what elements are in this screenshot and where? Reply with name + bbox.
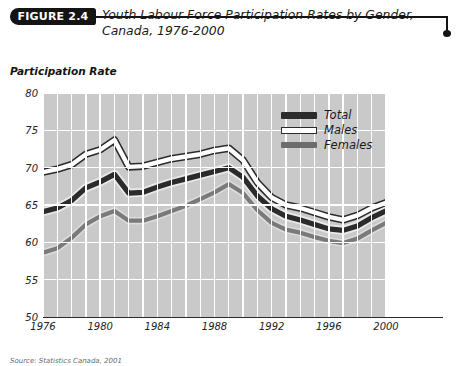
gridline-v-2000 xyxy=(385,93,386,317)
gridline-v-1983 xyxy=(142,93,143,317)
legend-swatch-total xyxy=(281,110,317,120)
gridline-v-1992 xyxy=(271,93,272,317)
gridline-v-1980 xyxy=(99,93,100,317)
gridline-v-1985 xyxy=(171,93,172,317)
gridline-v-1986 xyxy=(185,93,186,317)
x-axis-line xyxy=(43,317,443,318)
y-tick-label-70: 70 xyxy=(4,162,38,173)
legend-item-females: Females xyxy=(281,137,372,152)
gridline-v-1984 xyxy=(157,93,158,317)
chart-legend: Total Males Females xyxy=(281,107,372,152)
y-axis-ticks: 50556065707580 xyxy=(0,0,38,366)
y-tick-label-55: 55 xyxy=(4,274,38,285)
x-tick-label-1992: 1992 xyxy=(259,321,284,332)
legend-item-males: Males xyxy=(281,122,372,137)
legend-swatch-females xyxy=(281,140,317,150)
source-note: Source: Statistics Canada, 2001 xyxy=(10,357,122,365)
gridline-v-1981 xyxy=(114,93,115,317)
legend-label-males: Males xyxy=(324,124,357,136)
legend-swatch-males xyxy=(281,125,317,135)
x-tick-label-1984: 1984 xyxy=(145,321,170,332)
legend-label-total: Total xyxy=(324,109,351,121)
y-tick-label-60: 60 xyxy=(4,237,38,248)
x-tick-label-1980: 1980 xyxy=(87,321,112,332)
gridline-v-1989 xyxy=(228,93,229,317)
y-tick-label-80: 80 xyxy=(4,88,38,99)
legend-item-total: Total xyxy=(281,107,372,122)
x-tick-label-1996: 1996 xyxy=(316,321,341,332)
y-tick-label-65: 65 xyxy=(4,200,38,211)
x-tick-label-2000: 2000 xyxy=(373,321,398,332)
gridline-v-1982 xyxy=(128,93,129,317)
gridline-v-1978 xyxy=(71,93,72,317)
gridline-v-1991 xyxy=(257,93,258,317)
gridline-v-1979 xyxy=(85,93,86,317)
legend-label-females: Females xyxy=(324,139,372,151)
gridline-v-1987 xyxy=(200,93,201,317)
x-tick-label-1976: 1976 xyxy=(30,321,55,332)
gridline-v-1990 xyxy=(242,93,243,317)
x-tick-label-1988: 1988 xyxy=(202,321,227,332)
gridline-v-1977 xyxy=(57,93,58,317)
chart-area: 50556065707580 1976198019841988199219962… xyxy=(0,0,464,366)
gridline-v-1988 xyxy=(214,93,215,317)
y-tick-label-75: 75 xyxy=(4,125,38,136)
gridline-v-1976 xyxy=(42,93,43,317)
